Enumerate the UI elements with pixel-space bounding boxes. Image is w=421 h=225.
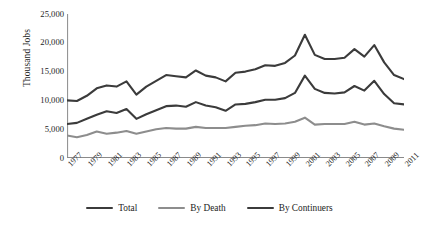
plot-area <box>67 14 404 158</box>
y-tick-label: 25,000 <box>22 10 64 19</box>
y-tick-label: 10,000 <box>22 96 64 105</box>
y-tick-label: 0 <box>22 154 64 163</box>
series-line-by-death <box>67 118 404 138</box>
legend-label: Total <box>118 203 137 213</box>
legend-label: By Death <box>190 203 225 213</box>
legend-item-by-death[interactable]: By Death <box>158 203 225 213</box>
y-axis-tick-labels: 05,00010,00015,00020,00025,000 <box>14 0 64 225</box>
legend-swatch-icon <box>247 207 274 210</box>
legend-label: By Continuers <box>279 203 333 213</box>
chart-legend: TotalBy DeathBy Continuers <box>0 203 419 213</box>
legend-item-by-continuers[interactable]: By Continuers <box>247 203 333 213</box>
series-line-by-continuers <box>67 76 404 124</box>
series-line-total <box>67 35 404 101</box>
legend-swatch-icon <box>86 207 113 210</box>
y-tick-label: 5,000 <box>22 125 64 134</box>
y-tick-label: 15,000 <box>22 67 64 76</box>
x-tick-label: 2011 <box>403 151 421 169</box>
series-lines-svg <box>67 14 404 158</box>
legend-item-total[interactable]: Total <box>86 203 137 213</box>
x-axis-tick-labels: 1977197919811983198519871989199119931995… <box>67 158 404 208</box>
legend-swatch-icon <box>158 207 185 210</box>
y-tick-label: 20,000 <box>22 38 64 47</box>
